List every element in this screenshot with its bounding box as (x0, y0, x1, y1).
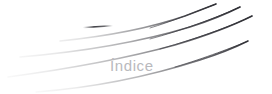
page-title: Índice (110, 58, 154, 73)
swoosh-stroke-4-weight (175, 41, 248, 67)
swoosh-stroke-2 (20, 7, 240, 57)
index-header-graphic: Índice (0, 0, 272, 94)
dash-accent-icon (84, 26, 112, 28)
swoosh-flourish-graphic (0, 0, 272, 94)
swoosh-stroke-1 (60, 4, 216, 41)
